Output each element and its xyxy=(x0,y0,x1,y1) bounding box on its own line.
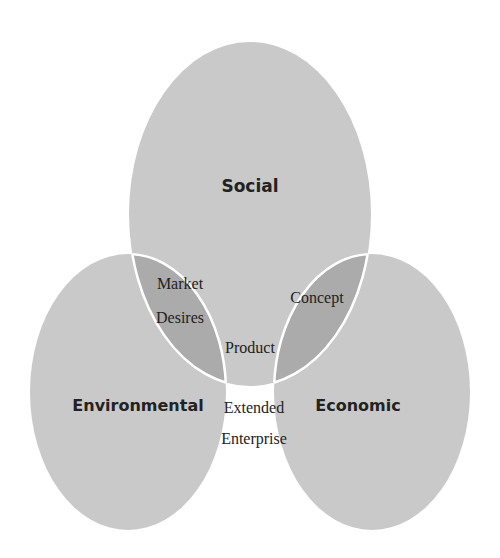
extended-enterprise-line1: Extended xyxy=(224,399,284,416)
economic-label: Economic xyxy=(315,396,400,415)
market-desires-line2: Desires xyxy=(156,309,204,326)
concept-label: Concept xyxy=(290,289,344,307)
social-label: Social xyxy=(221,176,278,196)
product-label: Product xyxy=(225,339,275,356)
venn-diagram: Social Environmental Economic Market Des… xyxy=(0,0,500,558)
environmental-label: Environmental xyxy=(72,396,203,415)
market-desires-line1: Market xyxy=(157,275,204,292)
extended-enterprise-line2: Enterprise xyxy=(221,430,287,448)
